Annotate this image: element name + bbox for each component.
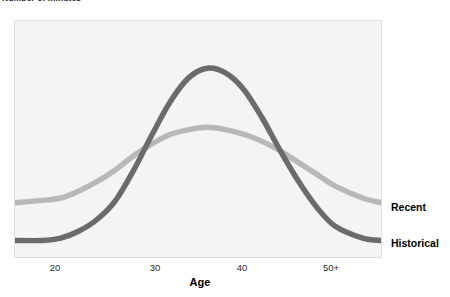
x-axis-title: Age (190, 276, 211, 288)
x-tick-30: 30 (150, 262, 161, 273)
x-tick-40: 40 (237, 262, 248, 273)
x-tick-50-plus: 50+ (323, 262, 339, 273)
historical-curve (15, 68, 381, 241)
legend-label-recent: Recent (391, 201, 426, 213)
chart-canvas (15, 21, 381, 257)
legend-label-historical: Historical (391, 237, 439, 249)
recent-curve (15, 127, 381, 203)
plot-area (14, 20, 382, 258)
y-axis-title: Number of minutes (2, 0, 81, 3)
series-recent (15, 127, 381, 203)
series-historical (15, 68, 381, 241)
x-tick-20: 20 (50, 262, 61, 273)
